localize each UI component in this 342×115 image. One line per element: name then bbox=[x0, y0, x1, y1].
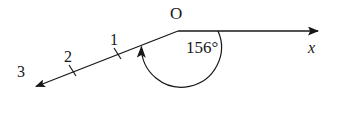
segment-label-3: 3 bbox=[17, 64, 25, 80]
geometry-figure: O 156° x 1 2 3 bbox=[0, 0, 342, 115]
tick-mark-2 bbox=[69, 65, 76, 76]
axis-label-x: x bbox=[308, 40, 315, 56]
segment-label-2: 2 bbox=[64, 49, 72, 65]
segment-label-1: 1 bbox=[110, 32, 118, 48]
angle-measure-label: 156° bbox=[186, 39, 218, 56]
vertex-label-o: O bbox=[170, 5, 182, 22]
